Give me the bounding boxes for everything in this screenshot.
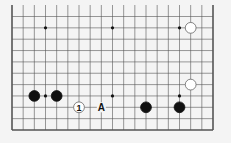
star-point	[111, 26, 114, 29]
star-point	[178, 94, 181, 97]
black-stone	[174, 102, 185, 113]
star-point	[178, 26, 181, 29]
white-stone	[185, 79, 196, 90]
move-number-1: 1	[76, 103, 81, 113]
point-label-a: A	[98, 102, 105, 113]
black-stone	[141, 102, 152, 113]
star-point	[111, 94, 114, 97]
go-board: A1	[0, 0, 231, 143]
white-stone	[185, 22, 196, 33]
star-point	[44, 26, 47, 29]
black-stone	[29, 91, 40, 102]
black-stone	[51, 91, 62, 102]
star-point	[44, 94, 47, 97]
